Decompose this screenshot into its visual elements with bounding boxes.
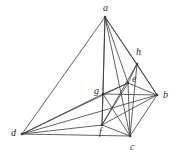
vertex-label-f: f (99, 127, 102, 137)
edge-a-d (22, 17, 105, 134)
vertex-label-c: c (130, 142, 134, 152)
vertex-label-b: b (163, 90, 168, 100)
vertex-label-a: a (103, 3, 108, 13)
vertex-point-e (127, 82, 130, 85)
vertex-point-d (21, 133, 24, 136)
vertex-point-g (102, 93, 105, 96)
edge-b-c (130, 95, 157, 136)
edge-d-f (22, 125, 102, 134)
edge-d-c (22, 134, 130, 136)
edge-h-b (137, 64, 157, 95)
vertex-point-a (104, 16, 107, 19)
vertex-point-h (136, 63, 139, 66)
edge-layer (22, 17, 157, 136)
geometric-figure: abcdefgh (0, 0, 179, 157)
vertex-layer (21, 16, 159, 138)
vertex-label-h: h (136, 47, 141, 57)
vertex-point-b (156, 94, 159, 97)
vertex-label-d: d (11, 128, 16, 138)
edge-b-g (103, 94, 157, 95)
edge-c-f (102, 125, 130, 136)
vertex-point-c (129, 135, 132, 138)
edge-a-g (103, 17, 105, 94)
figure-canvas (0, 0, 179, 157)
edge-f-g (102, 94, 103, 125)
vertex-label-e: e (132, 74, 136, 84)
vertex-label-g: g (94, 86, 99, 96)
